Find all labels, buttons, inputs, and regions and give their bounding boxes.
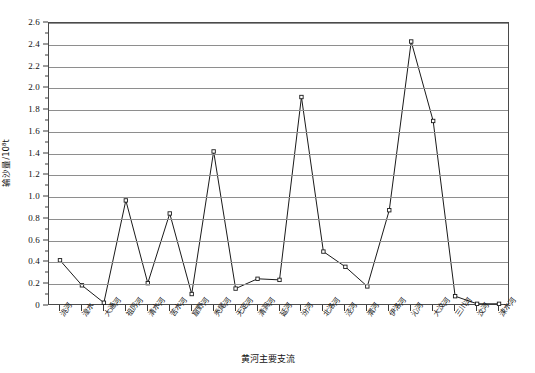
y-tick-label: 1.8 <box>28 104 40 114</box>
data-point-marker <box>431 119 434 122</box>
series-line <box>60 42 499 304</box>
y-tick-label: 2.4 <box>28 39 40 49</box>
data-point-marker <box>234 287 237 290</box>
data-point-marker <box>278 278 281 281</box>
data-point-marker <box>388 209 391 212</box>
data-point-marker <box>366 285 369 288</box>
gridline <box>49 154 508 155</box>
y-tick-label: 0.2 <box>28 278 40 288</box>
gridline <box>49 284 508 285</box>
y-tick-label: 2.2 <box>28 61 40 71</box>
gridline <box>49 67 508 68</box>
chart-container: 输沙量/10⁸t 00.20.40.60.81.01.21.41.61.82.0… <box>0 0 535 373</box>
y-tick-label: 1.6 <box>28 126 40 136</box>
y-tick-label: 2.0 <box>28 82 40 92</box>
y-tick-label: 0.6 <box>28 235 40 245</box>
gridline <box>49 88 508 89</box>
data-point-marker <box>410 40 413 43</box>
series-svg <box>49 23 510 306</box>
gridline <box>49 23 508 24</box>
data-point-marker <box>453 295 456 298</box>
data-point-marker <box>256 277 259 280</box>
y-tick-label: 2.6 <box>28 17 40 27</box>
gridline <box>49 132 508 133</box>
x-axis-labels: 洮河湟水大通河祖厉河清水河苦水河窟野河秃尾河无定河清涧河延河汾河北洛河泾河渭河伊… <box>48 312 509 356</box>
gridline <box>49 262 508 263</box>
gridline <box>49 175 508 176</box>
y-tick-label: 0.8 <box>28 213 40 223</box>
data-point-marker <box>344 265 347 268</box>
plot-area <box>48 22 509 305</box>
gridline <box>49 219 508 220</box>
gridline <box>49 241 508 242</box>
gridline <box>49 197 508 198</box>
x-axis-title: 黄河主要支流 <box>0 352 535 365</box>
y-tick-label: 0.4 <box>28 256 40 266</box>
data-point-marker <box>190 292 193 295</box>
y-axis: 00.20.40.60.81.01.21.41.61.82.02.22.42.6 <box>0 22 48 305</box>
y-tick-label: 1.0 <box>28 191 40 201</box>
data-point-marker <box>300 95 303 98</box>
gridline <box>49 110 508 111</box>
data-point-marker <box>168 212 171 215</box>
y-tick-label: 0 <box>35 300 40 310</box>
data-point-marker <box>124 199 127 202</box>
y-tick-label: 1.2 <box>28 169 40 179</box>
gridline <box>49 45 508 46</box>
data-point-marker <box>322 250 325 253</box>
y-tick-label: 1.4 <box>28 148 40 158</box>
